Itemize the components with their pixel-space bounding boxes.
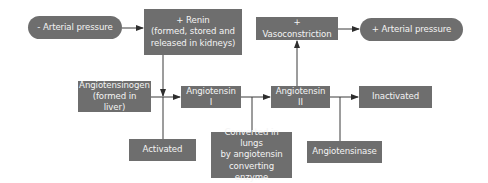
node-label: - Arterial pressure (37, 22, 112, 33)
node-label-line: by angiotensin (220, 149, 282, 160)
node-label-line: released in kidneys) (151, 38, 236, 49)
node-converted-in-lungs: Converted in lungs by angiotensin conver… (211, 132, 292, 178)
node-inactivated: Inactivated (359, 86, 432, 108)
node-label: Angiotensin I (184, 86, 238, 108)
node-renin: + Renin (formed, stored and released in … (144, 9, 242, 55)
node-angiotensin-1: Angiotensin I (181, 86, 241, 108)
node-activated: Activated (129, 139, 196, 161)
node-high-arterial-pressure: + Arterial pressure (360, 18, 463, 41)
node-label: Angiotensin II (274, 86, 327, 108)
node-angiotensinogen: Angiotensinogen (formed in liver) (78, 81, 151, 112)
node-label-line: converting enzyme (214, 161, 289, 183)
node-angiotensin-2: Angiotensin II (271, 86, 330, 108)
node-label-line: (formed, stored and (151, 26, 235, 37)
node-label: Inactivated (372, 91, 419, 102)
node-label-line: (formed in liver) (81, 91, 148, 113)
node-label-line: + Renin (176, 15, 209, 26)
node-label-line: Angiotensinogen (79, 80, 150, 91)
node-label: + Vasoconstriction (259, 17, 335, 39)
node-vasoconstriction: + Vasoconstriction (256, 17, 338, 40)
node-label-line: Converted in lungs (214, 127, 289, 149)
node-low-arterial-pressure: - Arterial pressure (28, 16, 122, 39)
node-label: Activated (143, 144, 183, 155)
node-angiotensinase: Angiotensinase (307, 141, 382, 163)
node-label: + Arterial pressure (372, 24, 452, 35)
node-label: Angiotensinase (312, 146, 376, 157)
